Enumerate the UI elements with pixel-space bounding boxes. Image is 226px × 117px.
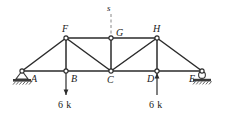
roller-hatch: [199, 81, 202, 84]
joint-label-C: C: [107, 75, 114, 85]
roller-hatch: [203, 81, 206, 84]
load-arrowhead-B: [64, 90, 69, 96]
joint-label-B: B: [71, 74, 77, 84]
joint-B: [64, 69, 68, 73]
member-A-F: [22, 38, 66, 71]
joint-F: [64, 36, 68, 40]
pin-base: [13, 79, 31, 82]
roller-hatch: [196, 81, 199, 84]
load-label-D: 6 k: [149, 100, 163, 110]
joint-label-G: G: [116, 28, 123, 38]
member-F-C: [66, 38, 111, 71]
section-label-s: s: [107, 4, 111, 13]
load-arrowhead-D: [155, 73, 160, 79]
joint-G: [109, 36, 113, 40]
roller-base: [193, 79, 211, 82]
roller-hatch: [206, 81, 209, 84]
joint-label-H: H: [153, 24, 160, 34]
joint-D: [155, 69, 159, 73]
joint-label-F: F: [62, 24, 68, 34]
joint-label-E: E: [189, 74, 195, 84]
truss-members: [22, 38, 202, 71]
pin-hatch: [16, 82, 19, 85]
roller-hatch: [209, 81, 212, 84]
member-C-H: [111, 38, 157, 71]
pin-hatch: [26, 82, 29, 85]
truss-joints: [20, 36, 204, 73]
pin-hatch: [13, 82, 16, 85]
joint-A: [20, 69, 24, 73]
joint-label-A: A: [31, 74, 37, 84]
joint-label-D: D: [147, 74, 154, 84]
pin-hatch: [23, 82, 26, 85]
load-label-B: 6 k: [58, 100, 72, 110]
joint-C: [109, 69, 113, 73]
joint-E: [200, 69, 204, 73]
truss-drawing: [0, 0, 226, 117]
truss-figure: A B C D E F G H s 6 k 6 k: [0, 0, 226, 117]
joint-H: [155, 36, 159, 40]
pin-hatch: [19, 82, 22, 85]
member-H-E: [157, 38, 202, 71]
